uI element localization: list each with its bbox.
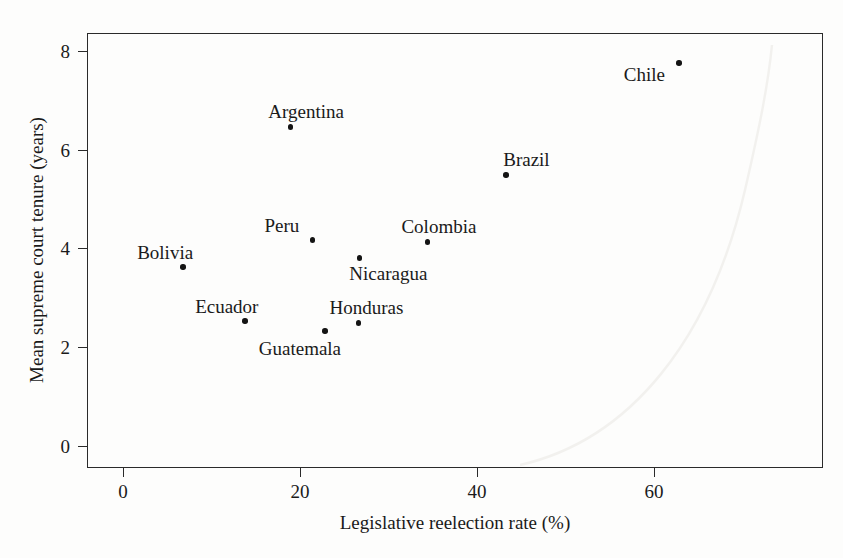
y-tick-0 (78, 446, 87, 447)
point-label-peru: Peru (264, 216, 299, 235)
point-label-argentina: Argentina (268, 102, 344, 121)
x-tick-label-60: 60 (645, 482, 664, 501)
point-label-guatemala: Guatemala (259, 339, 341, 358)
point-label-nicaragua: Nicaragua (349, 264, 427, 283)
y-tick-label-2: 2 (61, 338, 71, 357)
y-tick-2 (78, 347, 87, 348)
y-axis-title: Mean supreme court tenure (years) (26, 117, 48, 383)
y-tick-4 (78, 248, 87, 249)
point-label-bolivia: Bolivia (137, 243, 193, 262)
y-tick-6 (78, 150, 87, 151)
x-tick-20 (300, 468, 301, 477)
x-tick-40 (477, 468, 478, 477)
data-point-argentina (288, 124, 294, 130)
y-tick-label-8: 8 (61, 41, 71, 60)
x-axis-title: Legislative reelection rate (%) (340, 512, 571, 534)
data-point-honduras (356, 320, 362, 326)
point-label-honduras: Honduras (329, 298, 403, 317)
y-tick-label-0: 0 (61, 437, 71, 456)
y-tick-label-6: 6 (61, 140, 71, 159)
y-tick-8 (78, 51, 87, 52)
plot-frame (87, 33, 823, 468)
y-tick-label-4: 4 (61, 239, 71, 258)
x-tick-label-40: 40 (468, 482, 487, 501)
x-tick-0 (123, 468, 124, 477)
data-point-guatemala (322, 328, 328, 334)
point-label-colombia: Colombia (401, 217, 476, 236)
point-label-ecuador: Ecuador (195, 297, 258, 316)
x-tick-label-20: 20 (291, 482, 310, 501)
data-point-nicaragua (357, 255, 363, 261)
point-label-brazil: Brazil (503, 150, 549, 169)
x-tick-60 (654, 468, 655, 477)
x-tick-label-0: 0 (118, 482, 128, 501)
data-point-colombia (425, 239, 431, 245)
data-point-bolivia (180, 264, 186, 270)
data-point-chile (676, 60, 682, 66)
point-label-chile: Chile (624, 65, 665, 84)
data-point-ecuador (242, 318, 248, 324)
scatter-plot-figure: 02468 0204060 BoliviaEcuadorArgentinaPer… (0, 0, 843, 558)
data-point-peru (310, 237, 316, 243)
data-point-brazil (503, 172, 509, 178)
